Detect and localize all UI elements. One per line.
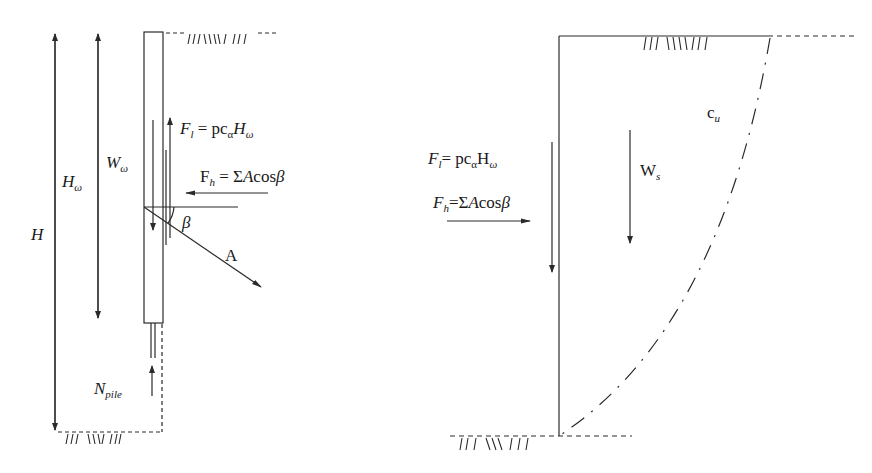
label-beta: β	[182, 214, 190, 231]
label-fh-right: Fh=ΣAcosβ	[433, 194, 510, 214]
failure-surface-curve	[559, 38, 770, 436]
diagram-graphics	[0, 0, 872, 473]
label-w-omega: Wω	[106, 154, 128, 174]
label-h: H	[31, 226, 43, 243]
ground-hatch-bottom-right	[460, 438, 528, 450]
label-fh-left: Fh = ΣAcosβ	[200, 168, 284, 188]
ground-hatch-top-left	[188, 34, 246, 44]
ground-hatch-top-right	[644, 37, 707, 50]
label-a: A	[225, 247, 237, 264]
label-cu: cu	[707, 104, 720, 124]
label-fl-left: Fl = pcαHω	[180, 120, 253, 140]
beta-angle-arc	[168, 207, 174, 223]
diagram-canvas: H Hω Wω Fl = pcαHω Fh = ΣAcosβ β A Npile…	[0, 0, 872, 473]
ground-hatch-bottom-left	[66, 434, 121, 444]
label-ws: Ws	[640, 162, 660, 182]
label-npile: Npile	[94, 380, 122, 400]
label-fl-right: Fl= pcαHω	[428, 150, 497, 170]
label-h-omega: Hω	[62, 173, 82, 193]
anchor-arrow	[144, 207, 261, 287]
